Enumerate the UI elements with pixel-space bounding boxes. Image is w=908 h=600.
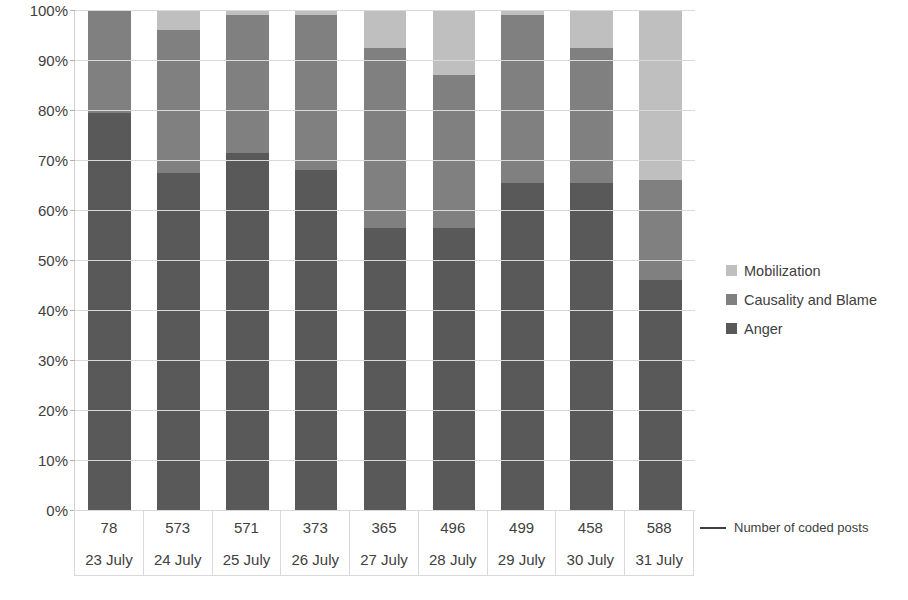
y-tick-label: 60% <box>8 202 68 219</box>
y-axis: 0%10%20%30%40%50%60%70%80%90%100% <box>8 10 68 510</box>
x-axis-column: 7823 July <box>75 511 144 575</box>
y-tickmark <box>70 210 75 211</box>
bar-segment <box>295 15 338 170</box>
x-axis-column: 57324 July <box>144 511 213 575</box>
coded-posts-value: 588 <box>625 511 693 543</box>
coded-posts-value: 365 <box>350 511 418 543</box>
gridline <box>75 10 695 11</box>
y-tickmark <box>70 310 75 311</box>
bar-segment <box>433 10 476 75</box>
leader-line-icon <box>700 527 726 529</box>
gridline <box>75 210 695 211</box>
x-tick-label: 26 July <box>281 543 349 575</box>
bar-segment <box>226 153 269 511</box>
coded-posts-value: 458 <box>556 511 624 543</box>
x-tick-label: 29 July <box>488 543 556 575</box>
bar-segment <box>295 170 338 510</box>
legend-label: Anger <box>744 321 783 337</box>
y-tickmark <box>70 110 75 111</box>
y-tick-label: 10% <box>8 452 68 469</box>
y-tick-label: 70% <box>8 152 68 169</box>
bar-segment <box>88 113 131 511</box>
y-tick-label: 80% <box>8 102 68 119</box>
x-axis-column: 49628 July <box>419 511 488 575</box>
gridline <box>75 260 695 261</box>
y-tick-label: 30% <box>8 352 68 369</box>
x-axis-column: 49929 July <box>488 511 557 575</box>
coded-posts-value: 571 <box>213 511 281 543</box>
gridline <box>75 110 695 111</box>
bar-segment <box>639 280 682 510</box>
bar-segment <box>226 15 269 153</box>
legend-swatch-icon <box>726 294 737 305</box>
legend-item[interactable]: Mobilization <box>726 258 904 283</box>
legend-item[interactable]: Causality and Blame <box>726 287 904 312</box>
y-tickmark <box>70 360 75 361</box>
bar-segment <box>639 10 682 180</box>
coded-posts-value: 499 <box>488 511 556 543</box>
legend-label: Causality and Blame <box>744 292 877 308</box>
coded-posts-value: 78 <box>75 511 143 543</box>
gridline <box>75 460 695 461</box>
y-tickmark <box>70 60 75 61</box>
y-tick-label: 20% <box>8 402 68 419</box>
x-axis-column: 57125 July <box>213 511 282 575</box>
stacked-bar-chart: 0%10%20%30%40%50%60%70%80%90%100% 7823 J… <box>0 0 908 600</box>
x-tick-label: 25 July <box>213 543 281 575</box>
bar-segment <box>639 180 682 280</box>
gridline <box>75 410 695 411</box>
bar-segment <box>433 228 476 511</box>
y-tickmark <box>70 260 75 261</box>
x-axis-column: 37326 July <box>281 511 350 575</box>
x-tick-label: 27 July <box>350 543 418 575</box>
x-axis-column: 36527 July <box>350 511 419 575</box>
coded-posts-value: 573 <box>144 511 212 543</box>
x-tick-label: 24 July <box>144 543 212 575</box>
legend: MobilizationCausality and BlameAnger <box>726 258 904 345</box>
bar-segment <box>157 30 200 173</box>
x-tick-label: 23 July <box>75 543 143 575</box>
x-tick-label: 31 July <box>625 543 693 575</box>
y-tick-label: 0% <box>8 502 68 519</box>
bar-segment <box>433 75 476 228</box>
coded-posts-value: 496 <box>419 511 487 543</box>
coded-posts-value: 373 <box>281 511 349 543</box>
y-tickmark <box>70 460 75 461</box>
gridline <box>75 360 695 361</box>
gridline <box>75 60 695 61</box>
bar-segment <box>501 15 544 183</box>
legend-swatch-icon <box>726 265 737 276</box>
bar-segment <box>88 10 131 113</box>
y-tick-label: 40% <box>8 302 68 319</box>
y-tick-label: 100% <box>8 2 68 19</box>
gridline <box>75 160 695 161</box>
plot-area <box>74 10 694 510</box>
y-tick-label: 50% <box>8 252 68 269</box>
y-tickmark <box>70 10 75 11</box>
gridline <box>75 310 695 311</box>
x-tick-label: 30 July <box>556 543 624 575</box>
annotation-label: Number of coded posts <box>734 520 868 535</box>
y-tick-label: 90% <box>8 52 68 69</box>
y-tickmark <box>70 160 75 161</box>
x-axis-column: 45830 July <box>556 511 625 575</box>
x-axis-table: 7823 July57324 July57125 July37326 July3… <box>74 510 694 576</box>
bar-segment <box>364 228 407 511</box>
bar-segment <box>364 48 407 228</box>
bar-segment <box>570 48 613 183</box>
bar-segment <box>157 10 200 30</box>
legend-swatch-icon <box>726 323 737 334</box>
legend-label: Mobilization <box>744 263 821 279</box>
bar-segment <box>364 10 407 48</box>
legend-item[interactable]: Anger <box>726 316 904 341</box>
x-tick-label: 28 July <box>419 543 487 575</box>
y-tickmark <box>70 410 75 411</box>
coded-posts-annotation: Number of coded posts <box>700 520 868 535</box>
x-axis-column: 58831 July <box>625 511 693 575</box>
bar-segment <box>570 10 613 48</box>
